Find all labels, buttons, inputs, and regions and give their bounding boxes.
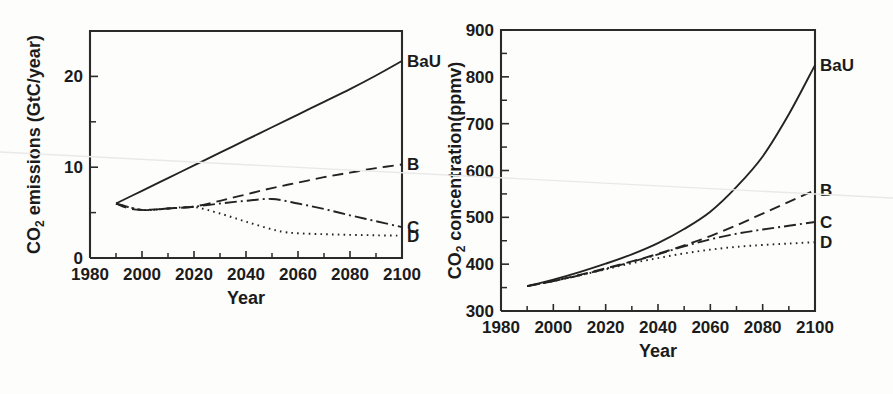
x-tick-label-2080: 2080: [331, 265, 369, 284]
y-axis-title-main: CO: [447, 252, 465, 279]
chart-panel-emissions: 198020002020204020602080210001020YearCO2…: [0, 0, 446, 394]
chart-panel-concentration: 1980200020202040206020802100300400500600…: [447, 0, 893, 394]
x-tick-label-2060: 2060: [279, 265, 317, 284]
y-axis-title-main: CO: [24, 227, 44, 254]
figure-canvas: 198020002020204020602080210001020YearCO2…: [0, 0, 893, 394]
series-line-BaU: [116, 61, 402, 204]
y-tick-label-0: 0: [74, 249, 83, 268]
y-axis-title-rest: emissions (GtC/year): [24, 35, 44, 220]
x-tick-label-2100: 2100: [796, 318, 834, 337]
y-axis-title: CO2 concentration(ppmv): [447, 62, 468, 280]
y-tick-label-300: 300: [466, 302, 494, 321]
plot-frame: [90, 31, 402, 258]
concentration-chart-svg: 1980200020202040206020802100300400500600…: [447, 0, 893, 394]
y-tick-label-900: 900: [466, 21, 494, 40]
x-tick-label-2000: 2000: [534, 318, 572, 337]
series-label-D: D: [407, 227, 419, 246]
series-line-C: [116, 199, 402, 227]
y-tick-label-20: 20: [64, 67, 83, 86]
series-line-C: [527, 222, 815, 286]
series-line-D: [527, 242, 815, 286]
x-tick-label-2080: 2080: [744, 318, 782, 337]
series-label-BaU: BaU: [820, 56, 854, 75]
x-axis-title: Year: [639, 341, 677, 361]
series-label-B: B: [820, 181, 832, 200]
x-tick-label-2020: 2020: [587, 318, 625, 337]
series-line-B: [116, 164, 402, 209]
x-tick-label-2000: 2000: [123, 265, 161, 284]
y-axis-title-rest: concentration(ppmv): [447, 62, 465, 246]
series-label-C: C: [820, 213, 832, 232]
x-axis-title: Year: [227, 288, 265, 308]
y-tick-label-500: 500: [466, 208, 494, 227]
series-line-BaU: [527, 65, 815, 286]
y-axis-title: CO2 emissions (GtC/year): [24, 35, 47, 254]
y-tick-label-800: 800: [466, 68, 494, 87]
y-tick-label-600: 600: [466, 162, 494, 181]
y-tick-label-400: 400: [466, 255, 494, 274]
plot-frame: [501, 30, 815, 311]
series-line-B: [527, 190, 815, 286]
series-label-BaU: BaU: [407, 52, 441, 71]
emissions-chart-svg: 198020002020204020602080210001020YearCO2…: [0, 0, 446, 394]
x-tick-label-2100: 2100: [383, 265, 421, 284]
x-tick-label-2020: 2020: [175, 265, 213, 284]
x-tick-label-2040: 2040: [639, 318, 677, 337]
y-tick-label-10: 10: [64, 158, 83, 177]
x-tick-label-2060: 2060: [691, 318, 729, 337]
series-label-B: B: [407, 155, 419, 174]
y-tick-label-700: 700: [466, 115, 494, 134]
series-label-D: D: [820, 233, 832, 252]
x-tick-label-2040: 2040: [227, 265, 265, 284]
